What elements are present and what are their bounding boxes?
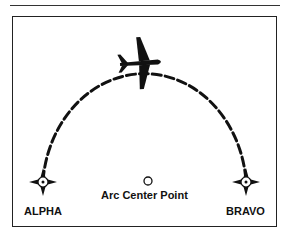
waypoint-star-icon bbox=[232, 168, 260, 196]
waypoint-label-alpha: ALPHA bbox=[24, 205, 62, 217]
waypoint-label-bravo: BRAVO bbox=[226, 205, 265, 217]
arc-diagram bbox=[0, 0, 290, 238]
airplane-icon bbox=[116, 36, 163, 91]
waypoint-star-icon bbox=[29, 168, 57, 196]
center-label: Arc Center Point bbox=[101, 189, 188, 201]
arc-path bbox=[43, 74, 246, 180]
circle-icon bbox=[144, 177, 152, 185]
